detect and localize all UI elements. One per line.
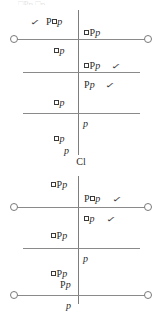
diagram-2-upper-right-world-node[interactable] — [144, 203, 152, 211]
formula-text: p — [54, 97, 65, 108]
box-modal-operator-icon — [51, 182, 56, 187]
formula-text: Pp — [84, 60, 100, 71]
diagram-1-left-world-node[interactable] — [10, 35, 18, 43]
diagram-2-rule-1 — [23, 248, 140, 249]
diagram-1-world-axis — [16, 39, 148, 40]
proposition-variable: p — [62, 179, 67, 190]
tableau-entry: Pp — [51, 268, 67, 279]
tableau-entry: Pp — [84, 79, 95, 90]
proposition-variable: p — [57, 16, 62, 27]
diagram-1-vertical-spine — [78, 10, 79, 155]
formula-text: p — [84, 213, 95, 224]
diagram-2: Pp Pp ✓ p ✓ Pp p Pp Pp Pp p — [0, 176, 162, 319]
box-modal-operator-icon — [54, 48, 59, 53]
formula-text: p — [83, 118, 88, 129]
tableau-entry: Pp — [51, 230, 67, 241]
formula-text: p — [64, 145, 69, 156]
box-modal-operator-icon — [54, 100, 59, 105]
entry-checkmark: ✓ — [111, 63, 121, 71]
box-modal-operator-icon — [84, 30, 89, 35]
proposition-variable: p — [95, 60, 100, 71]
tableau-entry: p — [54, 45, 65, 56]
diagram-2-vertical-spine — [78, 176, 79, 304]
diagram-1: Pp ✓ Pp p Pp ✓ Pp ✓ p p p p Cl — [0, 0, 162, 170]
formula-text: p — [54, 45, 65, 56]
box-modal-operator-icon — [84, 216, 89, 221]
proposition-variable: p — [95, 193, 100, 204]
entry-checkmark: ✓ — [106, 216, 116, 224]
box-modal-operator-icon — [54, 136, 59, 141]
formula-text: p — [54, 133, 65, 144]
diagram-2-world-axis-lower — [16, 295, 148, 296]
tableau-entry: p — [54, 133, 65, 144]
formula-text: Pp — [51, 179, 67, 190]
proposition-variable: p — [60, 133, 65, 144]
formula-text: Pp — [84, 27, 100, 38]
diagram-2-lower-left-world-node[interactable] — [10, 291, 18, 299]
proposition-variable: p — [60, 45, 65, 56]
box-modal-operator-icon — [52, 19, 57, 24]
diagram-1-rule-2 — [23, 113, 140, 114]
formula-text: Pp — [84, 193, 100, 204]
formula-text: p — [83, 253, 88, 264]
tableau-entry: p — [83, 253, 88, 264]
box-modal-operator-icon — [84, 63, 89, 68]
entry-checkmark: ✓ — [105, 82, 115, 90]
tableau-entry: p — [83, 118, 88, 129]
proposition-variable: p — [62, 230, 67, 241]
proposition-variable: p — [90, 79, 95, 90]
diagram-1-right-world-node[interactable] — [144, 35, 152, 43]
tableau-entry: p — [66, 300, 71, 311]
box-modal-operator-icon — [90, 196, 95, 201]
tableau-entry: Pp — [84, 193, 100, 204]
tableau-entry: Pp — [84, 60, 100, 71]
diagram-2-lower-right-world-node[interactable] — [144, 291, 152, 299]
proposition-variable: p — [64, 145, 69, 156]
tableau-entry: Pp — [60, 279, 71, 290]
formula-text: Pp — [51, 268, 67, 279]
formula-text: Pp — [46, 16, 62, 27]
tableau-entry: p — [64, 145, 69, 156]
proposition-variable: p — [66, 300, 71, 311]
diagram-1-rule-1 — [23, 72, 140, 73]
formula-text: p — [66, 300, 71, 311]
diagram-1-caption: Cl — [0, 156, 162, 167]
tableau-entry: Pp — [51, 179, 67, 190]
box-modal-operator-icon — [51, 271, 56, 276]
diagram-2-world-axis-upper — [16, 207, 148, 208]
proposition-variable: p — [66, 279, 71, 290]
box-modal-operator-icon — [51, 233, 56, 238]
formula-text: Pp — [84, 79, 95, 90]
proposition-variable: p — [83, 253, 88, 264]
formula-text: Pp — [51, 230, 67, 241]
proposition-variable: p — [95, 27, 100, 38]
tableau-entry: p — [54, 97, 65, 108]
proposition-variable: p — [90, 213, 95, 224]
formula-text: Pp — [60, 279, 71, 290]
entry-checkmark: ✓ — [30, 19, 40, 27]
tableau-entry: p — [84, 213, 95, 224]
proposition-variable: p — [62, 268, 67, 279]
proposition-variable: p — [83, 118, 88, 129]
proposition-variable: p — [60, 97, 65, 108]
tableau-entry: Pp — [84, 27, 100, 38]
tableau-entry: Pp — [46, 16, 62, 27]
entry-checkmark: ✓ — [112, 196, 122, 204]
diagram-2-upper-left-world-node[interactable] — [10, 203, 18, 211]
